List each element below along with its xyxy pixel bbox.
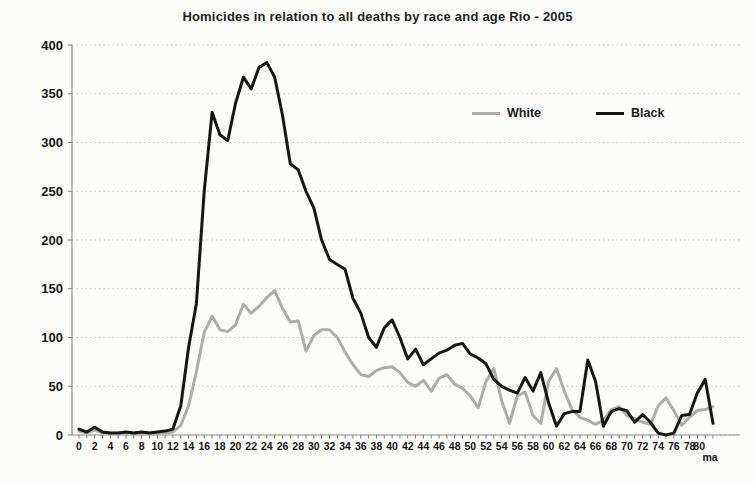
x-tick-label: 10: [151, 440, 163, 452]
x-tick-label: 68: [605, 440, 617, 452]
x-tick-label: 36: [355, 440, 367, 452]
line-chart-canvas: 0501001502002503003504000246810121416182…: [0, 0, 755, 483]
legend-item-white: White: [472, 106, 541, 120]
x-tick-label: 46: [433, 440, 445, 452]
white-series-line: [79, 291, 713, 433]
legend-label-white: White: [507, 106, 541, 120]
chart-figure: Homicides in relation to all deaths by r…: [0, 0, 755, 483]
y-tick-label: 250: [41, 184, 63, 199]
x-tick-label: 72: [637, 440, 649, 452]
x-tick-label: 12: [167, 440, 179, 452]
x-tick-label: 42: [402, 440, 414, 452]
y-tick-label: 50: [49, 379, 63, 394]
x-tick-label: 28: [292, 440, 304, 452]
x-tick-label: 26: [277, 440, 289, 452]
x-tick-label: 54: [496, 440, 508, 452]
x-tick-label: 20: [230, 440, 242, 452]
y-tick-label: 350: [41, 86, 63, 101]
x-axis-more-label: ma: [702, 451, 717, 463]
x-tick-label: 62: [558, 440, 570, 452]
x-tick-label: 24: [261, 440, 273, 452]
y-tick-label: 200: [41, 233, 63, 248]
x-tick-label: 18: [214, 440, 226, 452]
x-tick-label: 30: [308, 440, 320, 452]
legend-item-black: Black: [596, 106, 664, 120]
x-tick-label: 74: [652, 440, 664, 452]
x-tick-label: 34: [339, 440, 351, 452]
y-tick-label: 0: [56, 428, 63, 443]
x-tick-label: 0: [76, 440, 82, 452]
x-tick-label: 60: [543, 440, 555, 452]
x-tick-label: 52: [480, 440, 492, 452]
x-tick-label: 56: [511, 440, 523, 452]
x-tick-label: 48: [449, 440, 461, 452]
x-tick-label: 66: [590, 440, 602, 452]
x-tick-label: 32: [324, 440, 336, 452]
x-tick-label: 22: [245, 440, 257, 452]
x-tick-label: 76: [668, 440, 680, 452]
x-tick-label: 44: [418, 440, 430, 452]
x-tick-label: 38: [371, 440, 383, 452]
legend-label-black: Black: [631, 106, 664, 120]
x-tick-label: 8: [139, 440, 145, 452]
x-tick-label: 14: [183, 440, 195, 452]
x-tick-label: 40: [386, 440, 398, 452]
y-tick-label: 100: [41, 330, 63, 345]
white-line-swatch: [472, 112, 500, 115]
x-tick-label: 4: [107, 440, 113, 452]
x-tick-label: 64: [574, 440, 586, 452]
x-tick-label: 58: [527, 440, 539, 452]
x-tick-label: 16: [198, 440, 210, 452]
x-tick-label: 6: [123, 440, 129, 452]
x-tick-label: 70: [621, 440, 633, 452]
black-line-swatch: [596, 112, 624, 115]
y-tick-label: 150: [41, 281, 63, 296]
y-tick-label: 400: [41, 38, 63, 53]
x-tick-label: 2: [92, 440, 98, 452]
x-tick-label: 50: [465, 440, 477, 452]
y-tick-label: 300: [41, 135, 63, 150]
